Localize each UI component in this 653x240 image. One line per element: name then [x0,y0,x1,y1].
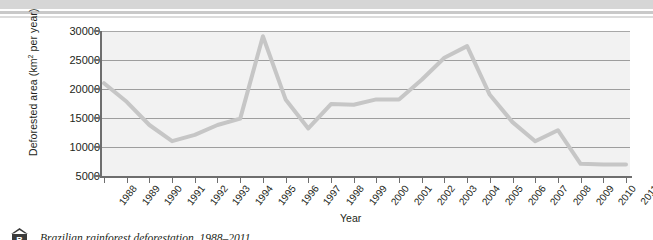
figure-badge-box: B [12,234,27,240]
x-tick-label-1989: 1989 [139,183,161,207]
x-tick-mark-2003 [444,178,445,183]
deforestation-line-chart: Deforested area (km2 per year) 300002500… [0,18,653,240]
x-tick-label-2004: 2004 [480,183,502,207]
x-tick-mark-1990 [149,178,150,183]
y-axis-title-superscript: 2 [27,54,34,58]
x-axis-title: Year [340,212,361,224]
x-tick-mark-2006 [513,178,514,183]
x-tick-label-1993: 1993 [230,183,252,207]
x-tick-mark-2008 [558,178,559,183]
plot-area [100,31,630,176]
series-polyline [104,36,626,164]
x-tick-mark-2007 [535,178,536,183]
x-tick-mark-2000 [376,178,377,183]
y-axis-line [100,31,102,177]
x-tick-label-1991: 1991 [185,183,207,207]
x-tick-label-2006: 2006 [525,183,547,207]
figure-badge: B [10,228,29,240]
x-tick-label-2007: 2007 [548,183,570,207]
x-tick-mark-1993 [217,178,218,183]
x-tick-mark-1989 [127,178,128,183]
x-tick-label-1988: 1988 [117,183,139,207]
deforestation-series [100,31,630,176]
x-tick-mark-1996 [286,178,287,183]
x-tick-label-1992: 1992 [207,183,229,207]
y-axis-title: Deforested area (km2 per year) [27,2,40,162]
x-tick-label-2009: 2009 [593,183,615,207]
y-axis-ticks: 30000250002000015000100005000 [57,31,100,176]
y-axis-title-main: Deforested area (km [27,58,39,156]
x-tick-label-2011: 2011 [638,183,653,207]
figure-page: Deforested area (km2 per year) 300002500… [0,0,653,240]
x-tick-mark-2002 [422,178,423,183]
x-tick-mark-2001 [399,178,400,183]
figure-caption: Brazilian rainforest deforestation, 1988… [40,232,250,240]
x-tick-mark-2005 [490,178,491,183]
figure-caption-row: B Brazilian rainforest deforestation, 19… [10,224,630,240]
x-tick-label-2005: 2005 [502,183,524,207]
x-tick-label-1996: 1996 [298,183,320,207]
x-tick-mark-1997 [308,178,309,183]
x-tick-mark-2004 [467,178,468,183]
x-tick-mark-1988 [104,178,105,183]
x-axis-line [100,176,632,178]
x-tick-label-1990: 1990 [162,183,184,207]
x-tick-mark-1992 [195,178,196,183]
page-header-band [0,0,653,9]
x-tick-mark-1994 [240,178,241,183]
x-tick-label-2001: 2001 [412,183,434,207]
x-tick-mark-2010 [603,178,604,183]
x-tick-label-1994: 1994 [253,183,275,207]
x-tick-mark-1991 [172,178,173,183]
x-tick-label-2010: 2010 [616,183,638,207]
x-tick-label-2000: 2000 [389,183,411,207]
x-tick-mark-1999 [354,178,355,183]
page-rule-upper [0,11,653,14]
x-tick-label-2002: 2002 [434,183,456,207]
x-tick-label-1998: 1998 [344,183,366,207]
x-tick-mark-1998 [331,178,332,183]
y-axis-title-tail: per year) [27,8,39,54]
x-tick-label-1995: 1995 [275,183,297,207]
x-tick-label-2008: 2008 [570,183,592,207]
x-tick-mark-2011 [626,178,627,183]
x-tick-label-1999: 1999 [366,183,388,207]
x-tick-mark-2009 [581,178,582,183]
x-tick-label-1997: 1997 [321,183,343,207]
x-tick-label-2003: 2003 [457,183,479,207]
x-tick-mark-1995 [263,178,264,183]
figure-badge-letter: B [16,236,23,240]
